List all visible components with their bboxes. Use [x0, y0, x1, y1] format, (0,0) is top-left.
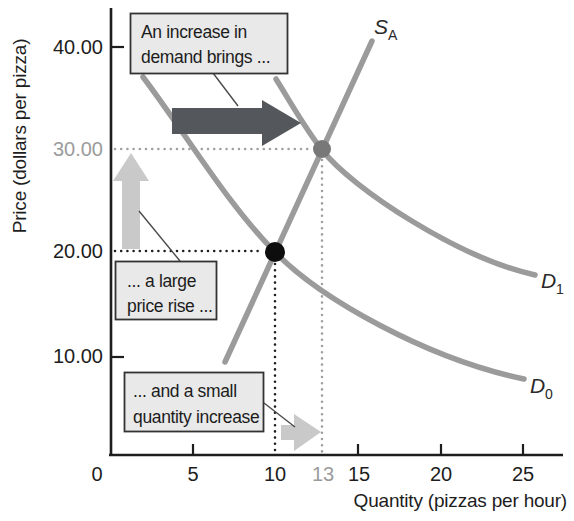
y-tick-label-10: 10.00	[53, 345, 103, 367]
callout-quantity-line1: ... and a small	[133, 381, 237, 401]
demand-new-curve-label: D	[541, 269, 556, 292]
x-tick-label-5: 5	[187, 463, 198, 485]
price-rise-up-arrow	[113, 153, 149, 249]
equilibrium-dot-new	[313, 140, 331, 158]
x-axis-title: Quantity (pizzas per hour)	[354, 490, 567, 511]
supply-curve-label-sub: A	[388, 27, 398, 43]
demand-increase-chart: 40.00 30.00 20.00 10.00 0 5 10 13 15 20 …	[0, 0, 574, 521]
x-tick-label-25: 25	[512, 463, 534, 485]
x-tick-label-20: 20	[430, 463, 452, 485]
x-tick-label-0: 0	[91, 463, 102, 485]
supply-curve-label: S	[374, 15, 388, 38]
quantity-increase-right-arrow	[281, 414, 321, 451]
supply-curve-sa	[225, 41, 372, 362]
callout-demand-line1: An increase in	[141, 22, 247, 42]
demand-new-curve-label-sub: 1	[556, 281, 564, 297]
callout-price-line1: ... a large	[127, 271, 196, 291]
y-tick-label-40: 40.00	[53, 36, 103, 58]
x-tick-label-13: 13	[312, 463, 334, 485]
equilibrium-dot-initial	[265, 242, 285, 262]
x-tick-label-15: 15	[348, 463, 370, 485]
y-tick-label-20: 20.00	[53, 240, 103, 262]
demand-curve-d1	[276, 79, 535, 275]
leader-line-demand-callout	[213, 73, 238, 106]
callout-price-line2: price rise ...	[127, 296, 213, 316]
callout-quantity-line2: quantity increase	[133, 407, 259, 427]
callout-demand-line2: demand brings ...	[141, 47, 270, 67]
demand-old-curve-label-sub: 0	[545, 386, 553, 402]
demand-old-curve-label: D	[530, 374, 545, 397]
demand-shift-right-arrow	[172, 100, 301, 146]
leader-line-price-callout	[139, 211, 180, 261]
y-tick-label-30: 30.00	[53, 138, 103, 160]
figure-canvas: 40.00 30.00 20.00 10.00 0 5 10 13 15 20 …	[0, 0, 574, 521]
x-tick-label-10: 10	[264, 463, 286, 485]
y-axis-title: Price (dollars per pizza)	[9, 39, 30, 234]
leader-line-quantity-callout	[264, 403, 295, 427]
